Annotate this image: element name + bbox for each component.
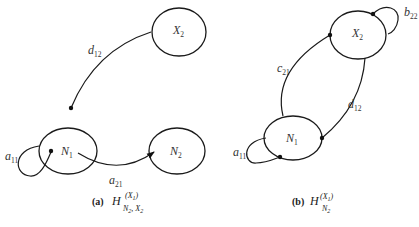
svg-text:d12: d12	[348, 97, 362, 113]
svg-text:(X1): (X1)	[320, 192, 334, 202]
svg-text:N2, X2: N2, X2	[122, 204, 143, 214]
svg-text:N1: N1	[60, 144, 73, 160]
edge-b-b22-dot	[371, 12, 375, 16]
edge-b-b22: b22	[371, 5, 418, 34]
diagram-a: X2 N1 N2 d12	[5, 8, 206, 214]
edge-a-a11-dot	[49, 149, 53, 153]
edge-b-d12: d12	[320, 58, 365, 140]
edge-a-a11: a11	[5, 146, 53, 176]
svg-text:d12: d12	[88, 43, 102, 59]
svg-text:N1: N1	[285, 131, 298, 147]
svg-text:(X1): (X1)	[125, 191, 139, 201]
edge-b-d12-dot	[320, 136, 324, 140]
edge-a-a21: a21	[78, 152, 154, 189]
svg-text:N2: N2	[321, 204, 330, 214]
caption-b: (b) H (X1) N2	[292, 192, 334, 214]
edge-b-a11-dot	[278, 155, 282, 159]
svg-text:c21: c21	[277, 61, 290, 77]
svg-text:a21: a21	[109, 173, 123, 189]
diagram-canvas: X2 N1 N2 d12	[0, 0, 419, 227]
svg-text:b22: b22	[404, 5, 418, 21]
edge-b-c21: c21	[277, 33, 332, 116]
node-a-x2: X2	[152, 8, 206, 56]
node-b-x2: X2	[330, 11, 386, 59]
caption-a-H: H	[111, 194, 122, 208]
node-b-n1: N1	[264, 116, 322, 160]
svg-text:X2: X2	[172, 23, 184, 39]
svg-text:a11: a11	[5, 149, 18, 165]
caption-a: (a) H (X1) N2, X2	[92, 191, 143, 214]
edge-a-d12-dot	[69, 106, 73, 110]
edge-b-c21-dot	[328, 33, 332, 37]
edge-b-a11: a11	[233, 138, 282, 163]
node-a-n2: N2	[149, 128, 205, 174]
svg-text:N2: N2	[169, 144, 182, 160]
diagram-b: X2 N1 b22 c21	[233, 5, 418, 214]
caption-b-H: H	[309, 194, 320, 208]
caption-b-label: (b)	[292, 196, 304, 208]
caption-a-label: (a)	[92, 196, 104, 208]
node-a-n1: N1	[39, 128, 97, 174]
edge-a-d12: d12	[69, 32, 151, 110]
svg-text:X2: X2	[351, 26, 363, 42]
svg-text:a11: a11	[233, 145, 246, 161]
